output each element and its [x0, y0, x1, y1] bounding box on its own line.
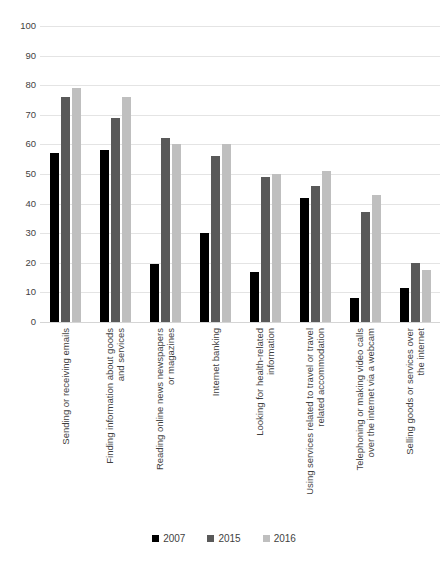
x-axis-label-line: Using services related to travel or trav… [304, 328, 315, 495]
x-axis-label-line: Sending or receiving emails [60, 328, 71, 445]
x-axis-label: Reading online news newspapersor magazin… [154, 328, 176, 470]
x-axis-label-cell: Internet banking [190, 326, 240, 524]
bar-group [140, 26, 190, 322]
y-tick-label-40: 40 [2, 199, 36, 209]
bar-group [240, 26, 290, 322]
bar-2015 [61, 97, 70, 322]
bar-2015 [161, 138, 170, 322]
y-tick-label-10: 10 [2, 287, 36, 297]
bar-2007 [200, 233, 209, 322]
y-tick-label-70: 70 [2, 110, 36, 120]
x-axis-label: Internet banking [210, 328, 221, 396]
legend-swatch-icon [207, 535, 214, 542]
x-axis-label-line: Internet banking [210, 328, 221, 396]
bar-2007 [300, 198, 309, 322]
x-axis-label: Using services related to travel or trav… [304, 328, 326, 495]
x-axis-label: Telephoning or making video callsover th… [354, 328, 376, 471]
bar-2015 [211, 156, 220, 322]
x-axis-label-line: or magazines [165, 328, 176, 470]
bar-2015 [411, 263, 420, 322]
bar-group [340, 26, 390, 322]
bar-2016 [422, 270, 431, 322]
x-axis-label-line: Looking for health-related [254, 328, 265, 436]
x-axis-label-cell: Selling goods or services overthe intern… [390, 326, 440, 524]
x-axis-label-line: and services [115, 328, 126, 464]
bar-2015 [361, 212, 370, 322]
x-axis-label-cell: Reading online news newspapersor magazin… [140, 326, 190, 524]
bar-2016 [272, 174, 281, 322]
bar-2007 [250, 272, 259, 322]
x-axis-label-line: Finding information about goods [104, 328, 115, 464]
y-tick-label-30: 30 [2, 228, 36, 238]
legend-label: 2007 [163, 533, 185, 544]
x-axis-label: Looking for health-relatedinformation [254, 328, 276, 436]
bars-layer [40, 26, 440, 322]
y-tick-label-100: 100 [2, 21, 36, 31]
x-axis-label-cell: Using services related to travel or trav… [290, 326, 340, 524]
y-tick-label-90: 90 [2, 51, 36, 61]
bar-chart: 1009080706050403020100 Sending or receiv… [0, 0, 448, 569]
x-axis-label-cell: Finding information about goodsand servi… [90, 326, 140, 524]
y-tick-label-0: 0 [2, 317, 36, 327]
x-axis-label-cell: Sending or receiving emails [40, 326, 90, 524]
bar-group [290, 26, 340, 322]
legend-item-2016[interactable]: 2016 [263, 533, 296, 544]
bar-2007 [400, 288, 409, 322]
x-axis-label-cell: Telephoning or making video callsover th… [340, 326, 390, 524]
bar-2016 [72, 88, 81, 322]
bar-2015 [311, 186, 320, 322]
x-axis-label-line: related accommodation [315, 328, 326, 495]
x-axis-label-line: Reading online news newspapers [154, 328, 165, 470]
x-axis-label: Sending or receiving emails [60, 328, 71, 445]
bar-group [90, 26, 140, 322]
legend-swatch-icon [263, 535, 270, 542]
x-axis-label-line: Selling goods or services over [404, 328, 415, 455]
bar-2007 [350, 298, 359, 322]
bar-2007 [50, 153, 59, 322]
bar-2016 [122, 97, 131, 322]
legend: 200720152016 [0, 533, 448, 544]
legend-swatch-icon [152, 535, 159, 542]
y-axis: 1009080706050403020100 [0, 26, 36, 322]
bar-2015 [261, 177, 270, 322]
y-tick-label-20: 20 [2, 258, 36, 268]
bar-2007 [150, 264, 159, 322]
bar-2016 [172, 144, 181, 322]
x-axis-label-line: the internet [415, 328, 426, 455]
y-tick-label-60: 60 [2, 139, 36, 149]
bar-2015 [111, 118, 120, 322]
bar-group [40, 26, 90, 322]
bar-2016 [322, 171, 331, 322]
x-axis-label-line: over the internet via a webcam [365, 328, 376, 471]
x-axis-label-line: Telephoning or making video calls [354, 328, 365, 471]
x-axis-label: Finding information about goodsand servi… [104, 328, 126, 464]
legend-label: 2015 [218, 533, 240, 544]
bar-group [390, 26, 440, 322]
legend-label: 2016 [274, 533, 296, 544]
bar-2016 [222, 144, 231, 322]
x-axis-label-line: information [265, 328, 276, 436]
bar-2016 [372, 195, 381, 322]
x-axis-label-cell: Looking for health-relatedinformation [240, 326, 290, 524]
bar-group [190, 26, 240, 322]
x-axis-labels: Sending or receiving emailsFinding infor… [40, 326, 440, 524]
legend-item-2015[interactable]: 2015 [207, 533, 240, 544]
legend-item-2007[interactable]: 2007 [152, 533, 185, 544]
y-tick-label-50: 50 [2, 169, 36, 179]
x-axis-label: Selling goods or services overthe intern… [404, 328, 426, 455]
bar-2007 [100, 150, 109, 322]
y-tick-label-80: 80 [2, 80, 36, 90]
gridline-0 [40, 322, 440, 323]
